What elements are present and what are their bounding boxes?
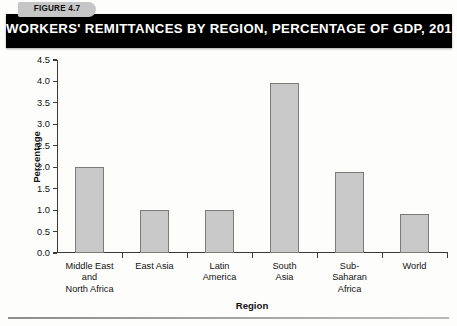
x-axis-title: Region bbox=[57, 300, 447, 311]
y-axis-tick bbox=[53, 59, 58, 60]
bar bbox=[270, 83, 300, 253]
x-axis-category-label: World bbox=[382, 261, 447, 272]
x-axis-category-label: LatinAmerica bbox=[187, 261, 252, 284]
category-label-line: North Africa bbox=[66, 284, 114, 294]
figure-page: WORKERS' REMITTANCES BY REGION, PERCENTA… bbox=[0, 0, 457, 326]
category-label-line: East Asia bbox=[135, 261, 173, 271]
y-axis-tick-label: 3.5 bbox=[37, 98, 50, 108]
category-label-line: Sub- bbox=[340, 261, 359, 271]
y-axis-tick bbox=[53, 167, 58, 168]
y-axis-tick bbox=[53, 231, 58, 232]
bar bbox=[335, 172, 365, 253]
y-axis-tick bbox=[53, 188, 58, 189]
category-label-line: Africa bbox=[338, 284, 362, 294]
y-axis-tick bbox=[53, 81, 58, 82]
bar bbox=[400, 214, 430, 253]
category-label-line: and bbox=[82, 272, 97, 282]
category-label-line: World bbox=[403, 261, 427, 271]
chart-plot-area: Percentage 0.00.51.01.52.02.53.03.54.04.… bbox=[57, 60, 447, 253]
category-label-line: Asia bbox=[276, 272, 294, 282]
y-axis-tick-label: 3.0 bbox=[37, 119, 50, 129]
x-axis-tick bbox=[382, 253, 383, 258]
y-axis-tick bbox=[53, 252, 58, 253]
y-axis-tick-label: 2.5 bbox=[37, 141, 50, 151]
y-axis-tick-label: 2.0 bbox=[37, 162, 50, 172]
figure-number-tab: FIGURE 4.7 bbox=[18, 2, 96, 17]
category-label-line: South bbox=[272, 261, 296, 271]
y-axis-tick-label: 4.5 bbox=[37, 55, 50, 65]
y-axis-tick-label: 1.0 bbox=[37, 205, 50, 215]
bottom-divider bbox=[8, 317, 449, 319]
x-axis-tick bbox=[317, 253, 318, 258]
category-label-line: America bbox=[203, 272, 237, 282]
figure-banner: WORKERS' REMITTANCES BY REGION, PERCENTA… bbox=[6, 14, 452, 48]
y-axis-tick-label: 4.0 bbox=[37, 76, 50, 86]
y-axis-tick bbox=[53, 210, 58, 211]
figure-number-label: FIGURE 4.7 bbox=[18, 4, 96, 13]
category-label-line: Middle East bbox=[65, 261, 113, 271]
x-axis-category-label: Middle EastandNorth Africa bbox=[57, 261, 122, 295]
x-axis-tick bbox=[252, 253, 253, 258]
x-axis-category-label: East Asia bbox=[122, 261, 187, 272]
x-axis-tick bbox=[447, 253, 448, 258]
bar bbox=[140, 210, 170, 253]
y-axis-tick-label: 0.0 bbox=[37, 248, 50, 258]
y-axis-tick bbox=[53, 145, 58, 146]
category-label-line: Saharan bbox=[332, 272, 367, 282]
y-axis-line bbox=[57, 60, 58, 253]
x-axis-tick bbox=[187, 253, 188, 258]
y-axis-tick bbox=[53, 124, 58, 125]
y-axis-title: Percentage bbox=[31, 131, 42, 183]
bar bbox=[205, 210, 235, 253]
figure-title: WORKERS' REMITTANCES BY REGION, PERCENTA… bbox=[6, 21, 452, 36]
x-axis-tick bbox=[122, 253, 123, 258]
y-axis-tick-label: 1.5 bbox=[37, 184, 50, 194]
y-axis-tick-label: 0.5 bbox=[37, 227, 50, 237]
bar bbox=[75, 167, 105, 253]
x-axis-category-label: Sub-SaharanAfrica bbox=[317, 261, 382, 295]
y-axis-tick bbox=[53, 102, 58, 103]
category-label-line: Latin bbox=[210, 261, 230, 271]
x-axis-category-label: SouthAsia bbox=[252, 261, 317, 284]
